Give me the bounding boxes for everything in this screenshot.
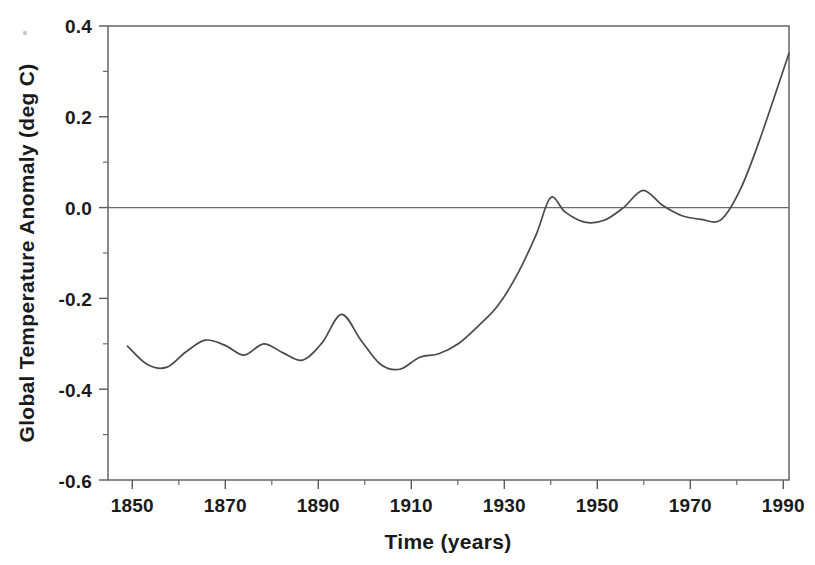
x-tick-label: 1850 <box>111 495 154 516</box>
y-axis-title: Global Temperature Anomaly (deg C) <box>15 64 38 443</box>
x-tick-label: 1990 <box>762 495 805 516</box>
x-tick-label: 1930 <box>483 495 526 516</box>
plot-frame <box>108 26 789 480</box>
x-axis-tick-labels: 1850 1870 1890 1910 1930 1950 1970 1990 <box>111 495 805 516</box>
x-tick-label: 1950 <box>576 495 619 516</box>
y-tick-label: -0.6 <box>58 471 92 492</box>
x-tick-label: 1870 <box>204 495 247 516</box>
speck-icon <box>23 31 27 35</box>
y-axis-minor-ticks <box>103 71 108 434</box>
y-tick-label: -0.4 <box>58 380 92 401</box>
y-tick-label: 0.4 <box>65 16 92 37</box>
x-tick-label: 1970 <box>669 495 712 516</box>
x-tick-label: 1910 <box>390 495 433 516</box>
y-tick-label: -0.2 <box>58 289 92 310</box>
y-tick-label: 0.2 <box>65 107 92 128</box>
y-tick-label: 0.0 <box>65 198 92 219</box>
chart-canvas: 0.4 0.2 0.0 -0.2 -0.4 -0.6 <box>0 0 815 565</box>
chart-figure: 0.4 0.2 0.0 -0.2 -0.4 -0.6 <box>0 0 815 565</box>
x-tick-label: 1890 <box>297 495 340 516</box>
x-axis-minor-ticks <box>179 480 737 485</box>
temperature-anomaly-curve <box>127 53 789 369</box>
x-axis-title: Time (years) <box>385 530 512 553</box>
y-axis-tick-labels: 0.4 0.2 0.0 -0.2 -0.4 -0.6 <box>58 16 92 492</box>
